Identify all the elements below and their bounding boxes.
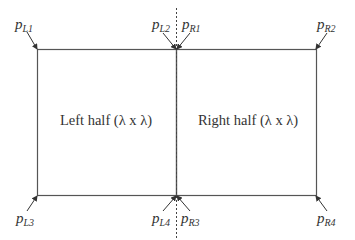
label-pR4: pR4 [316, 210, 336, 228]
label-pL4: pL4 [151, 210, 170, 228]
pointer-pL1 [27, 32, 37, 49]
left-half-label: Left half (λ x λ) [60, 112, 152, 129]
label-pL2: pL2 [151, 16, 170, 34]
label-pL1: pL1 [14, 16, 33, 34]
label-pR2: pR2 [316, 16, 336, 34]
pointer-pR4 [316, 196, 327, 211]
pointer-pR2 [316, 33, 327, 49]
pointer-pL2 [163, 33, 176, 49]
pointer-pR1 [177, 33, 190, 49]
label-pR3: pR3 [180, 210, 200, 228]
label-pL3: pL3 [15, 210, 34, 228]
pointer-pL3 [27, 196, 37, 211]
two-halves-diagram: pL1 pL2 pR1 pR2 pL3 pL4 pR3 pR4 Left hal… [0, 0, 355, 240]
right-half-label: Right half (λ x λ) [198, 112, 298, 129]
pointer-pR3 [177, 196, 190, 211]
pointer-pL4 [163, 196, 176, 211]
label-pR1: pR1 [181, 16, 201, 34]
